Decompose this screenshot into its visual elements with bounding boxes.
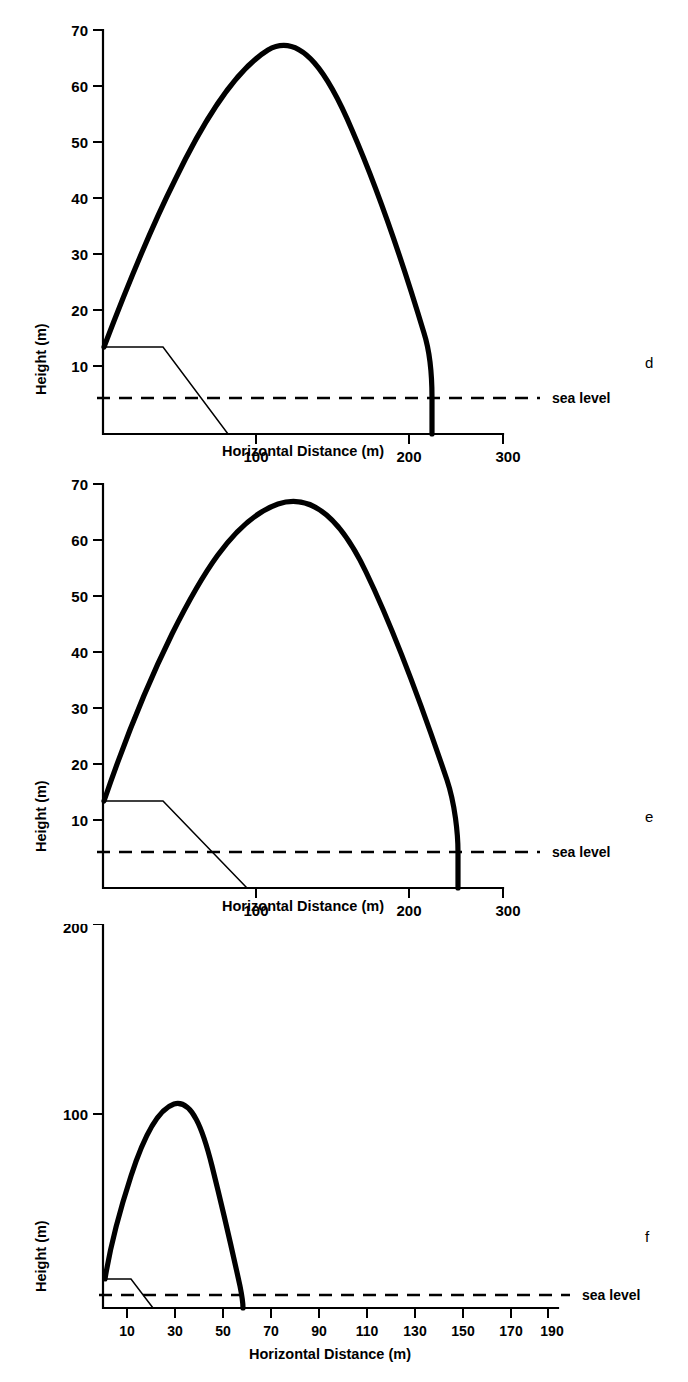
panel-f-axes: [103, 924, 558, 1308]
panel-e-ytick-10: 10: [71, 812, 88, 829]
panel-d-xtick-200: 200: [396, 448, 421, 462]
panel-e-ytick-70: 70: [71, 476, 88, 493]
panel-f-ytick-200: 200: [63, 924, 88, 936]
panel-e-y-axis-title: Height (m): [33, 780, 49, 852]
panel-d-ytick-10: 10: [71, 358, 88, 375]
panel-e-terrain-profile: [103, 801, 503, 888]
panel-letter-d: d: [645, 354, 653, 371]
panel-d-xtick-300: 300: [495, 448, 520, 462]
panel-f-xtick-150: 150: [451, 1323, 475, 1339]
panel-e-y-ticks: [93, 484, 103, 820]
panel-f-xtick-110: 110: [356, 1323, 379, 1339]
panel-d-axes: [103, 30, 503, 434]
figure-trajectory-panels: 70 60 50 40 30 20 10 100 200 300 sea lev…: [0, 0, 688, 1382]
panel-f-sea-level-label: sea level: [582, 1287, 640, 1303]
panel-f-svg: 200 100 10 30 50 70 90 110 130 150: [0, 924, 688, 1382]
panel-f-x-ticks: [127, 1308, 548, 1318]
panel-f-y-ticks: [93, 924, 103, 1114]
panel-f-trajectory-curve: [105, 1103, 243, 1308]
panel-e-xtick-200: 200: [396, 902, 421, 919]
chart-panel-d: 70 60 50 40 30 20 10 100 200 300 sea lev…: [0, 0, 688, 462]
panel-f-ytick-100: 100: [63, 1106, 88, 1123]
chart-panel-f: 200 100 10 30 50 70 90 110 130 150: [0, 924, 688, 1382]
panel-d-terrain-profile: [103, 347, 503, 434]
panel-e-ytick-40: 40: [71, 644, 88, 661]
panel-e-ytick-30: 30: [71, 700, 88, 717]
panel-d-x-axis-title: Horizontal Distance (m): [222, 443, 384, 459]
panel-d-ytick-70: 70: [71, 22, 88, 39]
panel-d-svg: 70 60 50 40 30 20 10 100 200 300 sea lev…: [0, 0, 688, 462]
panel-f-xtick-190: 190: [540, 1323, 564, 1339]
panel-d-trajectory-curve: [104, 45, 432, 434]
panel-e-ytick-60: 60: [71, 532, 88, 549]
panel-d-ytick-30: 30: [71, 246, 88, 263]
panel-d-ytick-20: 20: [71, 302, 88, 319]
panel-f-terrain-profile: [103, 1279, 558, 1308]
panel-f-xtick-170: 170: [499, 1323, 523, 1339]
panel-e-ytick-50: 50: [71, 588, 88, 605]
panel-e-sea-level-label: sea level: [552, 844, 610, 860]
panel-d-sea-level-label: sea level: [552, 390, 610, 406]
panel-f-xtick-50: 50: [215, 1323, 231, 1339]
panel-f-xtick-130: 130: [403, 1323, 427, 1339]
panel-f-xtick-70: 70: [263, 1323, 279, 1339]
panel-f-xtick-90: 90: [311, 1323, 327, 1339]
panel-f-xtick-30: 30: [167, 1323, 183, 1339]
panel-letter-e: e: [645, 808, 653, 825]
panel-e-x-axis-title: Horizontal Distance (m): [222, 898, 384, 914]
panel-f-xtick-10: 10: [119, 1323, 135, 1339]
panel-letter-f: f: [645, 1228, 650, 1245]
panel-d-y-axis-title: Height (m): [33, 323, 49, 395]
panel-d-ytick-40: 40: [71, 190, 88, 207]
panel-e-x-ticks: [256, 888, 503, 898]
panel-e-axes: [103, 484, 503, 888]
panel-e-xtick-300: 300: [495, 902, 520, 919]
panel-d-y-ticks: [93, 30, 103, 366]
panel-f-x-axis-title: Horizontal Distance (m): [249, 1346, 411, 1362]
panel-f-y-axis-title: Height (m): [33, 1220, 49, 1292]
chart-panel-e: 70 60 50 40 30 20 10 100 200 300 sea lev…: [0, 462, 688, 924]
panel-e-ytick-20: 20: [71, 756, 88, 773]
panel-e-trajectory-curve: [104, 501, 458, 888]
panel-d-ytick-50: 50: [71, 134, 88, 151]
panel-d-ytick-60: 60: [71, 78, 88, 95]
panel-e-svg: 70 60 50 40 30 20 10 100 200 300 sea lev…: [0, 462, 688, 924]
